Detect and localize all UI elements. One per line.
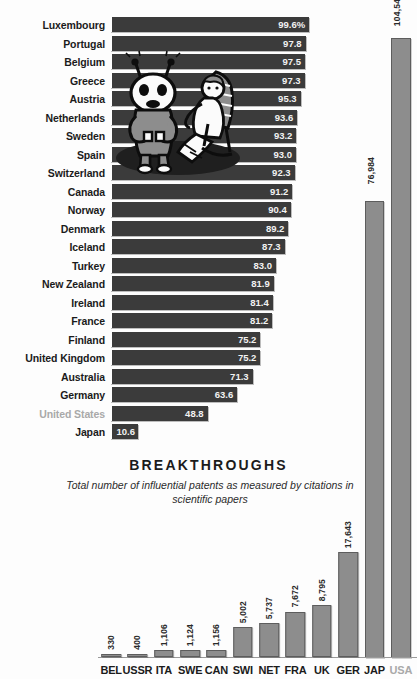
- bar-value-label: 93.6: [275, 110, 294, 125]
- bar-value-label: 92.3: [272, 165, 291, 180]
- value-bar: 10.6: [110, 424, 138, 439]
- value-bar: 81.4: [110, 295, 273, 310]
- top-chart-row: New Zealand81.9: [0, 275, 417, 293]
- value-bar: 91.2: [110, 184, 292, 199]
- bar-wrapper: 83.0: [110, 258, 276, 273]
- country-code-label: NET: [258, 664, 279, 676]
- country-label: Belgium: [0, 53, 105, 71]
- bottom-chart-column: NET5,737: [256, 450, 282, 679]
- patent-count-bar: [128, 654, 147, 657]
- country-label: Austria: [0, 90, 105, 108]
- bar-value-label: 75.2: [238, 350, 257, 365]
- country-code-label: USA: [390, 664, 413, 676]
- bottom-chart-column: SWI5,002: [230, 450, 256, 679]
- bar-value-label: 89.2: [266, 221, 285, 236]
- bar-wrapper: 97.8: [110, 36, 306, 51]
- value-bar: 93.6: [110, 110, 297, 125]
- country-label: United States: [0, 405, 105, 423]
- top-chart-row: Norway90.4: [0, 201, 417, 219]
- bar-wrapper: 92.3: [110, 165, 295, 180]
- value-bar: 71.3: [110, 369, 253, 384]
- bar-wrapper: 81.4: [110, 295, 273, 310]
- bar-value-label: 5,737: [264, 597, 274, 619]
- patent-count-bar: [154, 650, 173, 657]
- top-chart-row: Luxembourg99.6%: [0, 16, 417, 34]
- country-label: Finland: [0, 331, 105, 349]
- country-label: Luxembourg: [0, 16, 105, 34]
- bar-value-label: 1,156: [211, 624, 221, 646]
- patent-count-bar: [233, 627, 252, 657]
- patent-count-bar: [180, 650, 199, 657]
- top-chart-title-partial: [115, 0, 315, 9]
- country-label: Portugal: [0, 35, 105, 53]
- top-bar-chart: Luxembourg99.6%Portugal97.8Belgium97.5Gr…: [0, 0, 417, 450]
- bar-value-label: 7,672: [290, 585, 300, 607]
- value-bar: 92.3: [110, 165, 295, 180]
- top-chart-row: Finland75.2: [0, 331, 417, 349]
- patent-count-bar: [286, 612, 305, 658]
- bar-value-label: 83.0: [254, 258, 273, 273]
- value-bar: 93.0: [110, 147, 296, 162]
- bar-value-label: 17,643: [343, 521, 353, 548]
- bar-value-label: 99.6%: [278, 17, 305, 32]
- value-bar: 75.2: [110, 350, 260, 365]
- bottom-chart-column: USA: [388, 450, 414, 679]
- bar-value-label: 400: [132, 635, 142, 650]
- top-chart-row: Germany63.6: [0, 386, 417, 404]
- infographic-page: Luxembourg99.6%Portugal97.8Belgium97.5Gr…: [0, 0, 417, 679]
- bottom-chart-column: GER17,643: [335, 450, 361, 679]
- bar-value-label: 75.2: [238, 332, 257, 347]
- bottom-chart-column: FRA7,672: [282, 450, 308, 679]
- country-label: France: [0, 312, 105, 330]
- bar-value-label: 87.3: [262, 239, 281, 254]
- patent-count-bar: [207, 650, 226, 657]
- value-bar: 75.2: [110, 332, 260, 347]
- bar-wrapper: 75.2: [110, 350, 260, 365]
- bar-wrapper: 81.2: [110, 313, 272, 328]
- bar-value-label: 63.6: [215, 387, 234, 402]
- patent-count-bar: [259, 623, 278, 657]
- country-code-label: CAN: [205, 664, 228, 676]
- top-chart-row: France81.2: [0, 312, 417, 330]
- bar-value-label: 97.3: [282, 73, 301, 88]
- top-chart-row: Spain93.0: [0, 146, 417, 164]
- country-code-label: ITA: [156, 664, 172, 676]
- country-label: Canada: [0, 183, 105, 201]
- country-code-label: GER: [337, 664, 360, 676]
- top-chart-row: Portugal97.8: [0, 35, 417, 53]
- country-label: Iceland: [0, 238, 105, 256]
- top-chart-row: Austria95.3: [0, 90, 417, 108]
- country-label: United Kingdom: [0, 349, 105, 367]
- country-label: Spain: [0, 146, 105, 164]
- bar-value-label: 48.8: [185, 406, 204, 421]
- top-chart-row: Australia71.3: [0, 368, 417, 386]
- bar-wrapper: 71.3: [110, 369, 253, 384]
- top-chart-row: Turkey83.0: [0, 257, 417, 275]
- country-label: Sweden: [0, 127, 105, 145]
- bar-value-label: 330: [106, 635, 116, 650]
- bar-wrapper: 99.6%: [110, 17, 309, 32]
- country-label: Norway: [0, 201, 105, 219]
- bar-value-label: 81.9: [251, 276, 270, 291]
- country-code-label: JAP: [364, 664, 385, 676]
- bar-value-label: 95.3: [278, 91, 297, 106]
- country-label: New Zealand: [0, 275, 105, 293]
- bar-wrapper: 63.6: [110, 387, 237, 402]
- bottom-chart-column: UK8,795: [309, 450, 335, 679]
- bar-value-label: 76,984: [366, 157, 376, 184]
- value-bar: 90.4: [110, 202, 291, 217]
- country-label: Germany: [0, 386, 105, 404]
- bottom-chart-column: JAP: [361, 450, 387, 679]
- bar-value-label: 1,106: [159, 624, 169, 646]
- country-label: Greece: [0, 72, 105, 90]
- value-bar: 63.6: [110, 387, 237, 402]
- bar-value-label: 93.0: [274, 147, 293, 162]
- country-label: Switzerland: [0, 164, 105, 182]
- top-chart-row: Greece97.3: [0, 72, 417, 90]
- bar-value-label: 8,795: [317, 579, 327, 601]
- patent-count-bar: [101, 654, 120, 657]
- patent-count-bar: [312, 605, 331, 657]
- bar-value-label: 93.2: [274, 128, 293, 143]
- breakthroughs-bar-chart: BREAKTHROUGHS Total number of influentia…: [0, 450, 417, 679]
- country-label: Ireland: [0, 294, 105, 312]
